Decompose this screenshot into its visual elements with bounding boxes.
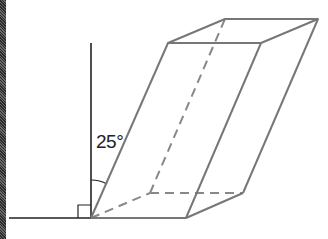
angle-arc xyxy=(91,180,107,184)
hidden-edges xyxy=(91,19,243,218)
right-angle-marker xyxy=(78,205,91,218)
angle-label: 25° xyxy=(96,131,123,153)
visible-edges xyxy=(91,19,318,218)
prism-diagram xyxy=(0,0,328,239)
